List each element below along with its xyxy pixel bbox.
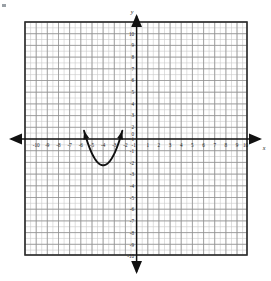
x-tick--8: -8 bbox=[56, 142, 61, 148]
y-tick-7: 7 bbox=[132, 66, 135, 72]
x-tick-7: 7 bbox=[213, 142, 216, 148]
y-tick--1: -1 bbox=[130, 148, 135, 154]
y-tick-2: 2 bbox=[132, 124, 135, 130]
y-axis-arrow-bottom bbox=[131, 261, 142, 274]
x-tick--7: -7 bbox=[67, 142, 72, 148]
y-axis-arrow-top bbox=[131, 14, 142, 27]
x-axis-arrow-right bbox=[249, 133, 262, 144]
x-axis-arrow-left bbox=[9, 133, 22, 144]
x-tick-9: 9 bbox=[236, 142, 239, 148]
y-tick-1: 1 bbox=[132, 136, 135, 142]
y-tick--9: -9 bbox=[130, 242, 135, 248]
coordinate-plane-svg: y x 0 -10 -9 -8 -7 -6 -5 -4 -3 -2 -1 1 2… bbox=[0, 0, 271, 281]
x-tick--6: -6 bbox=[79, 142, 84, 148]
y-axis-label: y bbox=[130, 9, 134, 15]
x-tick-4: 4 bbox=[180, 142, 183, 148]
y-tick-5: 5 bbox=[132, 89, 135, 95]
x-tick--10: -10 bbox=[33, 142, 40, 148]
x-tick-6: 6 bbox=[202, 142, 205, 148]
y-tick--6: -6 bbox=[130, 206, 135, 212]
y-tick--4: -4 bbox=[130, 183, 135, 189]
y-tick--2: -2 bbox=[130, 160, 135, 166]
x-tick-10: 10 bbox=[243, 142, 249, 148]
x-tick--9: -9 bbox=[45, 142, 50, 148]
y-tick-4: 4 bbox=[132, 101, 135, 107]
x-tick--1: -1 bbox=[131, 142, 136, 148]
y-tick--8: -8 bbox=[130, 230, 135, 236]
y-tick-9: 9 bbox=[132, 42, 135, 48]
x-tick--2: -2 bbox=[123, 142, 128, 148]
y-tick--7: -7 bbox=[130, 218, 135, 224]
x-tick-2: 2 bbox=[158, 142, 161, 148]
x-tick--5: -5 bbox=[90, 142, 95, 148]
y-tick--3: -3 bbox=[130, 171, 135, 177]
y-tick-3: 3 bbox=[132, 112, 135, 118]
y-tick--5: -5 bbox=[130, 195, 135, 201]
x-tick-5: 5 bbox=[191, 142, 194, 148]
y-tick-6: 6 bbox=[132, 77, 135, 83]
y-tick-10: 10 bbox=[129, 31, 135, 37]
y-tick--10: -10 bbox=[127, 253, 134, 259]
graph-figure: y x 0 -10 -9 -8 -7 -6 -5 -4 -3 -2 -1 1 2… bbox=[0, 0, 271, 281]
x-tick-3: 3 bbox=[169, 142, 172, 148]
x-axis-label: x bbox=[262, 145, 266, 151]
x-tick--4: -4 bbox=[101, 142, 106, 148]
x-tick-8: 8 bbox=[225, 142, 228, 148]
x-tick-1: 1 bbox=[147, 142, 150, 148]
x-tick--3: -3 bbox=[112, 142, 117, 148]
y-tick-8: 8 bbox=[132, 54, 135, 60]
